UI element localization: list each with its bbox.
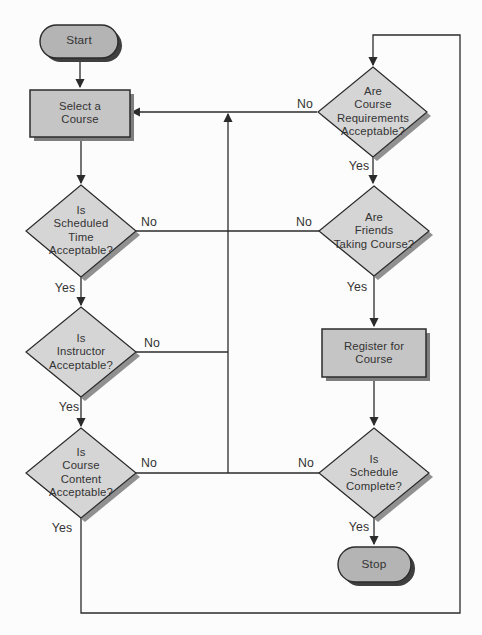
register-node — [322, 329, 430, 381]
stop-shape — [338, 547, 411, 582]
select-course-shape — [30, 90, 130, 137]
schedule-complete-node — [319, 428, 433, 522]
instructor-node — [26, 307, 140, 401]
instructor-shape — [26, 307, 136, 397]
register-shape — [322, 329, 426, 377]
friends-taking-shape — [319, 186, 429, 276]
course-requirements-shape — [318, 67, 427, 157]
scheduled-time-shape — [26, 185, 136, 277]
start-shape — [40, 25, 118, 58]
stop-node — [338, 547, 415, 586]
select-course-node — [30, 90, 134, 141]
scheduled-time-node — [26, 185, 140, 281]
flowchart-page: Start Select a Course Is Scheduled Time … — [0, 0, 482, 635]
friends-taking-node — [319, 186, 433, 280]
start-node — [40, 25, 122, 62]
course-content-shape — [26, 428, 136, 518]
flowchart-canvas — [0, 0, 482, 635]
course-requirements-node — [318, 67, 431, 161]
schedule-complete-shape — [319, 428, 429, 518]
course-content-node — [26, 428, 140, 522]
